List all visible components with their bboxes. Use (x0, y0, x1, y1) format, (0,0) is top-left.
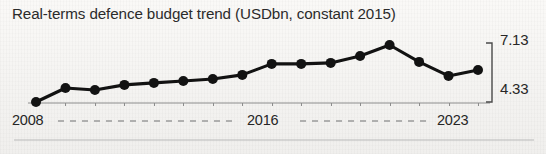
data-point-marker (444, 71, 454, 81)
series-line (36, 45, 478, 102)
data-point-marker (237, 70, 247, 80)
data-point-marker (296, 59, 306, 69)
data-point-marker (208, 74, 218, 84)
x-axis-label-start: 2008 (12, 112, 43, 128)
line-chart-svg (0, 0, 546, 154)
data-point-marker (61, 83, 71, 93)
data-point-marker (385, 40, 395, 50)
x-axis-label-mid: 2016 (247, 112, 278, 128)
data-point-marker (267, 59, 277, 69)
data-point-marker (178, 76, 188, 86)
data-point-marker (149, 78, 159, 88)
data-point-marker (355, 51, 365, 61)
data-point-marker (326, 58, 336, 68)
series-markers (31, 40, 483, 107)
plot-area (0, 0, 546, 154)
right-axis-bracket-path (486, 43, 492, 102)
data-point-marker (414, 57, 424, 67)
data-point-marker (473, 65, 483, 75)
chart-figure: Real-terms defence budget trend (USDbn, … (0, 0, 546, 154)
data-point-marker (90, 85, 100, 95)
x-axis-label-end: 2023 (437, 112, 468, 128)
baseline-axis (28, 103, 490, 106)
right-axis-bracket (486, 43, 492, 102)
data-point-marker (119, 80, 129, 90)
axis-max-value-label: 7.13 (500, 31, 528, 48)
data-point-marker (31, 97, 41, 107)
axis-min-value-label: 4.33 (500, 80, 528, 97)
